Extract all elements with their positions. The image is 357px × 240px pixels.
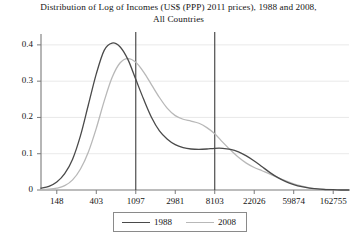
series-lines	[41, 43, 349, 190]
x-axis-tick-label: 162755	[310, 196, 356, 206]
reference-lines	[136, 32, 215, 190]
y-axis-tick-label: 0.3	[5, 75, 33, 85]
series-line-1988	[41, 43, 349, 190]
x-axis-ticks	[57, 190, 333, 194]
gridlines	[41, 45, 349, 154]
legend-entry-2008: 2008	[186, 213, 236, 231]
legend-swatch-1988	[122, 222, 150, 223]
y-axis-tick-label: 0.4	[5, 39, 33, 49]
legend-label-2008: 2008	[218, 217, 236, 227]
legend-label-1988: 1988	[154, 217, 172, 227]
y-axis-tick-label: 0.2	[5, 111, 33, 121]
chart-legend: 1988 2008	[113, 212, 247, 232]
series-line-2008	[41, 59, 349, 190]
y-axis-ticks	[37, 45, 41, 190]
chart-figure: Distribution of Log of Incomes (US$ (PPP…	[0, 0, 357, 240]
legend-swatch-2008	[186, 222, 214, 223]
legend-entry-1988: 1988	[122, 213, 172, 231]
y-axis-tick-label: 0.1	[5, 148, 33, 158]
y-axis-tick-label: 0	[5, 184, 33, 194]
